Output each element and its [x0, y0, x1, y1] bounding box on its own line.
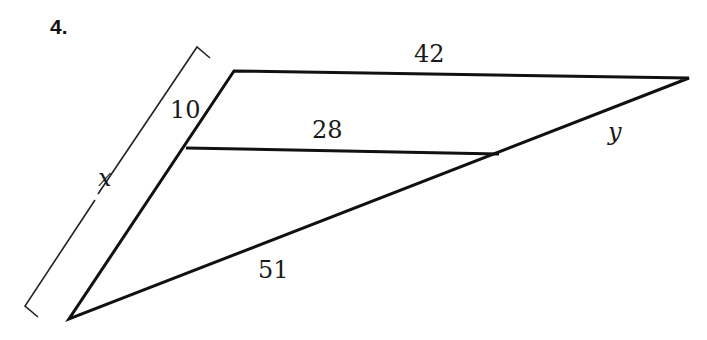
triangle-diagram: 4. 42 28 10 x y 51 — [0, 0, 707, 340]
label-10: 10 — [170, 96, 201, 124]
label-51: 51 — [258, 256, 289, 284]
parallel-segment — [186, 148, 499, 154]
label-42: 42 — [414, 40, 445, 68]
label-y: y — [607, 118, 622, 146]
outer-triangle — [69, 71, 689, 319]
label-28: 28 — [312, 116, 343, 144]
problem-number: 4. — [50, 15, 68, 38]
label-x: x — [98, 164, 112, 192]
